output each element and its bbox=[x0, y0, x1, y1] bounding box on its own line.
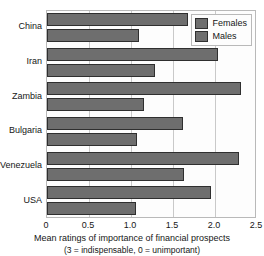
category-label-zambia: Zambia bbox=[12, 91, 42, 101]
bar-bulgaria-males bbox=[47, 133, 137, 146]
legend-label-males: Males bbox=[212, 31, 236, 42]
bar-group-venezuela bbox=[47, 150, 255, 185]
legend-swatch-icon-females bbox=[195, 18, 208, 29]
bar-iran-females bbox=[47, 48, 218, 61]
legend-label-females: Females bbox=[212, 18, 247, 29]
chart-legend: FemalesMales bbox=[191, 14, 252, 46]
category-label-usa: USA bbox=[23, 195, 42, 205]
bar-zambia-males bbox=[47, 98, 144, 111]
tick-label-2.0: 2.0 bbox=[208, 220, 221, 230]
bar-group-iran bbox=[47, 46, 255, 81]
legend-item-females: Females bbox=[195, 18, 247, 29]
category-label-china: China bbox=[18, 21, 42, 31]
category-label-iran: Iran bbox=[26, 56, 42, 66]
tick-label-2.5: 2.5 bbox=[250, 220, 263, 230]
category-label-venezuela: Venezuela bbox=[0, 160, 42, 170]
tick-label-1.5: 1.5 bbox=[166, 220, 179, 230]
bar-zambia-females bbox=[47, 82, 241, 95]
category-label-bulgaria: Bulgaria bbox=[9, 125, 42, 135]
bar-china-males bbox=[47, 29, 139, 42]
bar-group-bulgaria bbox=[47, 115, 255, 150]
bar-usa-females bbox=[47, 186, 211, 199]
tick-label-1.0: 1.0 bbox=[124, 220, 137, 230]
tick-label-0.5: 0.5 bbox=[82, 220, 95, 230]
x-axis-sublabel: (3 = indispensable, 0 = unimportant) bbox=[0, 245, 264, 255]
bar-group-usa bbox=[47, 184, 255, 218]
legend-item-males: Males bbox=[195, 31, 247, 42]
bar-china-females bbox=[47, 13, 188, 26]
bar-iran-males bbox=[47, 64, 155, 77]
category-axis-labels: ChinaIranZambiaBulgariaVenezuelaUSA bbox=[0, 10, 46, 218]
bar-group-zambia bbox=[47, 80, 255, 115]
bar-venezuela-males bbox=[47, 168, 184, 181]
bar-usa-males bbox=[47, 202, 136, 215]
bar-chart: ChinaIranZambiaBulgariaVenezuelaUSA Fema… bbox=[0, 0, 264, 256]
legend-swatch-icon-males bbox=[195, 31, 208, 42]
x-axis-label: Mean ratings of importance of financial … bbox=[0, 233, 264, 243]
bar-venezuela-females bbox=[47, 152, 239, 165]
plot-area: FemalesMales bbox=[46, 10, 256, 218]
x-axis-tick-labels: 00.51.01.52.02.5 bbox=[0, 220, 264, 232]
bar-bulgaria-females bbox=[47, 117, 183, 130]
tick-label-0: 0 bbox=[43, 220, 48, 230]
